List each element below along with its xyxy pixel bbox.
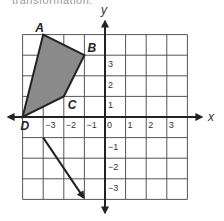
x-tick-label: 1 <box>128 120 133 130</box>
vertex-label-a: A <box>34 21 44 35</box>
y-tick-label: −2 <box>108 162 118 172</box>
y-tick-label: 1 <box>108 100 113 110</box>
vertex-label-b: B <box>87 41 96 55</box>
x-tick-label: 2 <box>148 120 153 130</box>
x-tick-label: 3 <box>169 120 174 130</box>
y-tick-label: 2 <box>108 80 113 90</box>
axes <box>9 22 202 213</box>
vertex-label-c: C <box>68 98 77 112</box>
x-tick-label: −3 <box>45 120 55 130</box>
coordinate-plane: −3−2−10123321−1−2−3 ABCD x y <box>0 0 224 221</box>
y-tick-label: 3 <box>108 59 113 69</box>
x-tick-label: 0 <box>107 120 112 130</box>
x-tick-label: −1 <box>86 120 96 130</box>
x-tick-label: −2 <box>66 120 76 130</box>
y-axis-label: y <box>100 3 108 17</box>
y-tick-label: −1 <box>108 142 118 152</box>
vertex-label-d: D <box>21 119 30 133</box>
y-tick-label: −3 <box>108 183 118 193</box>
x-axis-label: x <box>207 110 215 124</box>
